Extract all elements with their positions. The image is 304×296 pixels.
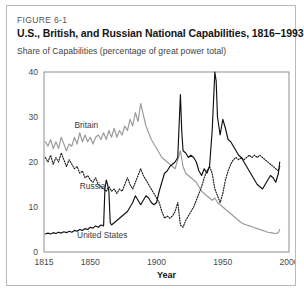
line-chart: 010203040 18151850190019502000 BritainRu… [7, 58, 295, 284]
x-tick-label-1850: 1850 [81, 257, 100, 267]
series-label-united-states: United States [77, 230, 127, 240]
y-axis-ticks: 010203040 [28, 67, 38, 257]
x-tick-label-2000: 2000 [279, 257, 295, 267]
x-tick-label-1950: 1950 [213, 257, 232, 267]
figure-card: FIGURE 6-1 U.S., British, and Russian Na… [6, 5, 296, 286]
series-line-united-states [45, 72, 279, 234]
x-tick-label-1900: 1900 [147, 257, 166, 267]
figure-subtitle: Share of Capabilities (percentage of gre… [17, 46, 226, 56]
chart-container: 010203040 18151850190019502000 BritainRu… [7, 58, 295, 284]
series-label-russia: Russia [80, 181, 106, 191]
y-tick-label-40: 40 [28, 67, 38, 77]
y-tick-label-0: 0 [33, 247, 38, 257]
figure-number: FIGURE 6-1 [17, 15, 67, 25]
y-tick-label-30: 30 [28, 112, 38, 122]
y-tick-label-10: 10 [28, 202, 38, 212]
series-label-britain: Britain [74, 120, 98, 130]
series-group [45, 72, 279, 234]
x-tick-label-1815: 1815 [34, 257, 53, 267]
page-title: U.S., British, and Russian National Capa… [17, 27, 302, 39]
y-tick-label-20: 20 [28, 157, 38, 167]
x-axis-ticks: 18151850190019502000 [34, 257, 295, 267]
x-axis-title: Year [157, 270, 177, 280]
